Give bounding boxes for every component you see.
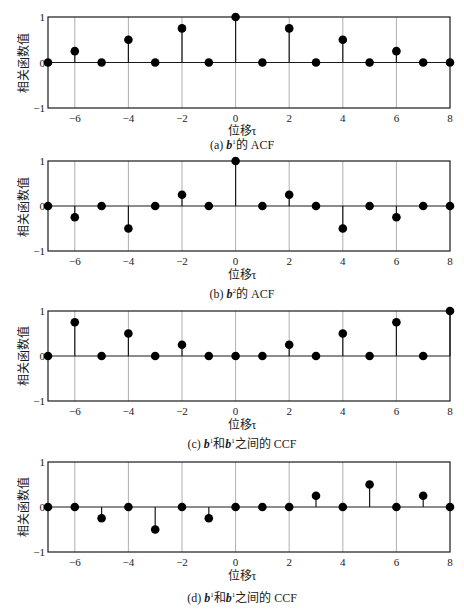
chart-d-point — [97, 514, 106, 523]
chart-d-caption-mid: 和 — [214, 591, 226, 605]
chart-d-point — [339, 503, 348, 512]
chart-d-caption: (d) b1和b1之间的 CCF — [10, 588, 464, 606]
chart-d-point — [392, 503, 401, 512]
chart-d-ytick-label: −1 — [33, 546, 45, 558]
chart-d-ylabel: 相关函数值 — [14, 467, 31, 547]
chart-d-point — [178, 503, 187, 512]
chart-d-caption-sup: 1 — [210, 591, 214, 599]
chart-d-point — [151, 525, 160, 534]
chart-d-point — [419, 491, 428, 500]
chart-d-point — [446, 503, 455, 512]
chart-d-point — [258, 503, 267, 512]
chart-d-caption-suffix: 之间的 CCF — [235, 591, 297, 605]
chart-d-ytick-label: 1 — [40, 456, 46, 468]
chart-d-point — [312, 491, 321, 500]
chart-d-point — [285, 503, 294, 512]
chart-d-point — [205, 514, 214, 523]
chart-d-caption-prefix: (d) — [187, 591, 201, 605]
chart-d-point — [44, 503, 53, 512]
chart-d-svg: −6−4−202468−101 — [0, 0, 464, 610]
chart-d-point — [71, 503, 80, 512]
chart-d-point — [365, 480, 374, 489]
chart-d-point — [231, 503, 240, 512]
chart-d-caption-sup2: 1 — [232, 591, 236, 599]
chart-d-xlabel: 位移τ — [10, 566, 464, 584]
chart-panel-d: −6−4−202468−101 相关函数值 位移τ (d) b1和b1之间的 C… — [0, 0, 464, 610]
chart-d-point — [124, 503, 133, 512]
